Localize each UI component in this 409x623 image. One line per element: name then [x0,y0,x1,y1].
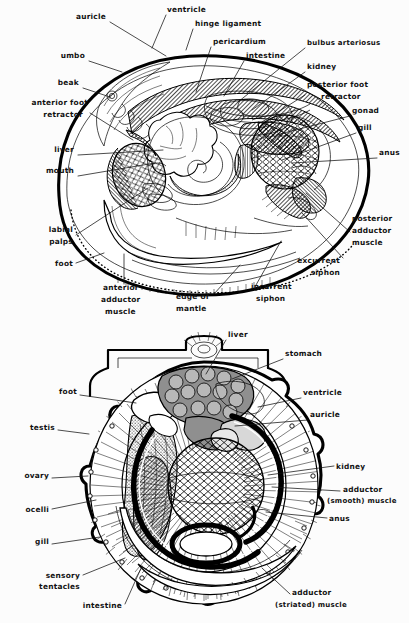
anatomy-label: umbo [61,51,85,60]
anatomy-label: kidney [307,62,336,71]
anatomy-label: anus [379,148,400,157]
anatomy-label: intestine [246,51,285,60]
anatomy-label: beak [58,78,80,87]
hinge-left-wing [90,368,108,396]
anatomy-label: ventricle [167,5,206,14]
anatomy-label: palps [49,237,73,246]
anatomy-label: mantle [176,304,207,313]
leader-line [186,29,193,50]
anatomy-label: testis [30,423,55,432]
anatomy-label: pericardium [213,37,266,46]
anatomy-label: muscle [105,307,136,316]
anatomy-label: adductor [343,485,383,494]
anatomy-label: muscle [352,238,383,247]
anatomy-label: liver [228,330,248,339]
anatomy-label: gonad [352,106,379,115]
figure-scallop-anatomy: liverstomachventricleauriclekidneyadduct… [0,320,409,623]
anatomy-label: (striated) muscle [275,601,347,609]
anatomy-label: auricle [310,410,340,419]
leader-line [89,61,122,72]
anatomy-label: kidney [336,462,365,471]
anatomy-label: gill [358,123,372,132]
anatomy-label: anterior foot [32,98,89,107]
anatomy-label: anus [329,514,350,523]
anatomy-label: auricle [76,12,106,21]
anatomy-label: labial [49,225,73,234]
anatomy-label: ovary [24,471,49,480]
leader-line [110,22,166,56]
anatomy-label: liver [54,145,74,154]
anatomy-label: foot [59,387,77,396]
anatomy-label: siphon [311,268,340,277]
gill-posterior [251,115,319,189]
anatomy-label: foot [55,259,73,268]
anatomy-label: ocelli [25,505,49,514]
anatomy-label: anterior [103,283,139,292]
anatomy-label: adductor [352,226,392,235]
anatomy-figure-page: auricleventriclehinge ligamentpericardiu… [0,0,409,623]
umbo-knob [191,342,217,358]
intestine-loop-inner [180,532,232,556]
kidney [168,438,264,534]
leader-line [152,15,166,48]
anatomy-label: posterior foot [307,80,368,89]
anatomy-label: stomach [285,349,322,358]
leader-line [52,537,100,544]
anatomy-label: incurrent [251,282,292,291]
anatomy-label: ventricle [303,388,342,397]
anatomy-label: hinge ligament [195,19,262,28]
leader-line [58,430,89,434]
anatomy-label: sensory [46,571,80,580]
anatomy-label: tentacles [39,582,80,591]
umbo-radial-ribs [184,332,224,346]
anatomy-label: excurrent [297,256,340,265]
anatomy-label: siphon [256,294,285,303]
anatomy-label: (smooth) muscle [327,497,397,505]
figure-clam-anatomy: auricleventriclehinge ligamentpericardiu… [0,0,409,320]
anatomy-label: posterior [352,214,393,223]
leader-line [83,558,125,575]
anatomy-label: intestine [83,601,122,610]
anatomy-label: gill [35,537,49,546]
umbo-knob-inner [198,345,210,353]
anatomy-label: retractor [321,92,361,101]
anatomy-label: mouth [46,166,74,175]
anatomy-label: adductor [292,588,332,597]
anatomy-label: retractor [43,110,83,119]
anatomy-label: bulbus arteriosus [307,39,381,47]
anatomy-label: adductor [101,295,141,304]
anatomy-label: edge of [176,292,210,301]
